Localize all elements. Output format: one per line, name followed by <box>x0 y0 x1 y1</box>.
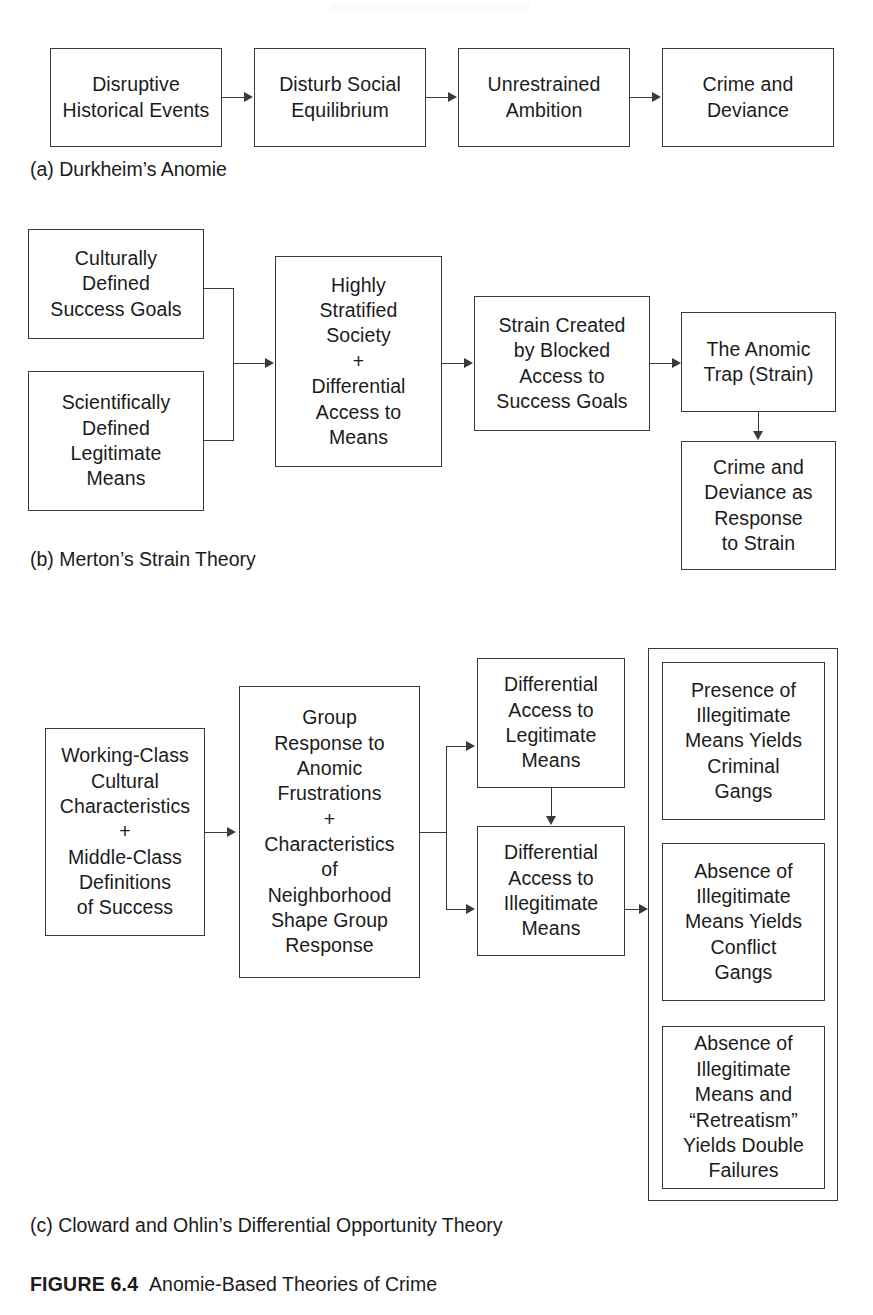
panel-c-box-presence-criminal-gangs: Presence of Illegitimate Means Yields Cr… <box>662 662 825 820</box>
panel-c-arrow-4-outcomes <box>639 904 648 914</box>
panel-b-box-scientifically-defined-legitimate-means: Scientifically Defined Legitimate Means <box>28 371 204 511</box>
panel-c-split-to-box4 <box>446 909 468 910</box>
panel-a-connector-2 <box>426 97 450 98</box>
figure-canvas: Disruptive Historical Events Disturb Soc… <box>0 0 873 1315</box>
panel-a-box-3: Unrestrained Ambition <box>458 48 630 147</box>
figure-caption-space <box>138 1273 149 1295</box>
panel-c-arrow-3-4 <box>546 816 556 825</box>
panel-b-connector-5-6 <box>758 412 759 433</box>
panel-a-arrow-2 <box>448 92 457 102</box>
panel-b-arrow-to-box3 <box>265 358 274 368</box>
panel-c-box-absence-double-failures: Absence of Illegitimate Means and “Retre… <box>662 1026 825 1189</box>
panel-a-connector-1 <box>222 97 246 98</box>
page-artifact <box>330 2 530 12</box>
panel-b-caption: (b) Merton’s Strain Theory <box>30 547 256 571</box>
panel-c-box-differential-legitimate: Differential Access to Legitimate Means <box>477 658 625 788</box>
panel-c-caption: (c) Cloward and Ohlin’s Differential Opp… <box>30 1213 503 1237</box>
figure-caption-lead: FIGURE 6.4 <box>30 1273 138 1295</box>
panel-b-merge-to-box3 <box>233 363 267 364</box>
figure-caption: FIGURE 6.4 Anomie-Based Theories of Crim… <box>30 1272 437 1296</box>
panel-b-merge-top <box>204 288 234 289</box>
panel-a-caption: (a) Durkheim’s Anomie <box>30 157 227 181</box>
panel-c-arrow-to-box4 <box>466 904 475 914</box>
panel-b-arrow-4-5 <box>672 358 681 368</box>
panel-c-arrow-to-box3 <box>466 741 475 751</box>
panel-c-split-stem <box>420 832 447 833</box>
panel-a-box-1: Disruptive Historical Events <box>50 48 222 147</box>
panel-c-box-differential-illegitimate: Differential Access to Illegitimate Mean… <box>477 826 625 956</box>
panel-b-box-crime-deviance-response: Crime and Deviance as Response to Strain <box>681 441 836 570</box>
panel-c-connector-3-4 <box>551 788 552 818</box>
panel-a-arrow-1 <box>244 92 253 102</box>
panel-c-split-to-box3 <box>446 746 468 747</box>
panel-c-box-group-response: Group Response to Anomic Frustrations + … <box>239 686 420 978</box>
panel-c-box-absence-conflict-gangs: Absence of Illegitimate Means Yields Con… <box>662 843 825 1001</box>
panel-b-merge-vertical <box>233 288 234 441</box>
panel-a-box-2: Disturb Social Equilibrium <box>254 48 426 147</box>
panel-a-box-4: Crime and Deviance <box>662 48 834 147</box>
panel-c-box-working-class-cultural: Working-Class Cultural Characteristics +… <box>45 728 205 936</box>
panel-b-box-highly-stratified-society: Highly Stratified Society + Differential… <box>275 256 442 467</box>
figure-caption-title: Anomie-Based Theories of Crime <box>149 1273 437 1295</box>
panel-b-box-anomic-trap: The Anomic Trap (Strain) <box>681 312 836 412</box>
panel-b-connector-3-4 <box>442 363 466 364</box>
panel-a-connector-3 <box>630 97 654 98</box>
panel-b-arrow-3-4 <box>464 358 473 368</box>
panel-a-arrow-3 <box>652 92 661 102</box>
panel-b-arrow-5-6 <box>753 431 763 440</box>
panel-c-arrow-1-2 <box>227 827 236 837</box>
panel-b-merge-bottom <box>204 440 234 441</box>
panel-b-box-culturally-defined-success-goals: Culturally Defined Success Goals <box>28 229 204 339</box>
panel-b-box-strain-created: Strain Created by Blocked Access to Succ… <box>474 296 650 431</box>
panel-c-connector-1-2 <box>205 832 229 833</box>
panel-c-split-vertical <box>446 746 447 909</box>
panel-b-connector-4-5 <box>650 363 674 364</box>
